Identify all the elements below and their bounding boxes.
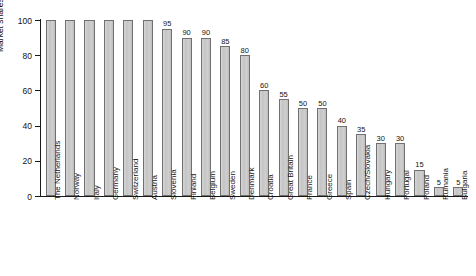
x-axis-category-label: France [306,175,314,200]
x-axis-category-label: Finland [190,174,198,200]
bar-group[interactable]: 50 [317,20,327,196]
bar-group[interactable]: 50 [298,20,308,196]
y-axis-tick-label: 80 [23,51,32,60]
x-axis-category-label: Norway [73,173,81,200]
bar-value-label: 90 [182,29,190,37]
x-axis-category-label: Hungary [384,170,392,200]
y-axis-tick-label: 0 [27,192,32,201]
x-axis-category-label: Bulgaria [461,171,469,200]
y-axis-tick-label: 60 [23,87,32,96]
bar-group[interactable]: 90 [182,20,192,196]
x-axis-category-label: Portugal [403,170,411,200]
bar-group[interactable]: 5 [453,20,463,196]
bar-group[interactable]: 90 [201,20,211,196]
x-axis-category-label: Czech/Slovakia [364,145,372,200]
x-axis-category-label: Rumania [442,168,450,200]
x-axis-category-label: The Netherlands [54,141,62,200]
bar[interactable] [65,20,75,196]
bar-group[interactable]: 85 [220,20,230,196]
x-axis-category-label: Italy [93,185,101,200]
x-axis-category-label: Poland [423,175,431,200]
bar-value-label: 85 [221,38,229,46]
bar[interactable] [84,20,94,196]
y-axis-tick: 0 [35,196,40,197]
bar-group[interactable]: 15 [414,20,424,196]
bar-value-label: 60 [260,82,268,90]
x-axis-category-label: Austria [151,175,159,200]
y-axis-tick-label: 20 [23,157,32,166]
y-axis-tick: 40 [35,126,40,127]
bar-value-label: 80 [241,47,249,55]
y-axis-tick: 100 [35,20,40,21]
bar-group[interactable] [65,20,75,196]
bar[interactable] [143,20,153,196]
bar-value-label: 50 [318,100,326,108]
x-axis-category-label: Greece [326,174,334,200]
bar-value-label: 15 [415,161,423,169]
bar-group[interactable]: 60 [259,20,269,196]
bar-group[interactable] [84,20,94,196]
bar-value-label: 55 [279,91,287,99]
bar-value-label: 40 [338,117,346,125]
y-axis-title-label: Market shares, % [0,0,5,52]
x-axis-category-label: Great Britain [287,155,295,200]
x-axis-category-label: Spain [345,180,353,200]
y-axis-tick: 80 [35,55,40,56]
bar-chart: Market shares, % 020406080100 9590908580… [0,0,476,276]
x-axis-category-label: Denmark [248,168,256,200]
x-axis-category-label: Belgium [209,171,217,200]
bar-value-label: 95 [163,20,171,28]
y-axis-title: Market shares, % [0,0,5,52]
bar[interactable] [182,38,192,196]
bar-group[interactable]: 40 [337,20,347,196]
y-axis-tick: 20 [35,161,40,162]
y-axis-tick: 60 [35,90,40,91]
x-axis-category-label: Switzerland [132,159,140,200]
x-axis-category-label: Sweden [229,171,237,200]
bar-group[interactable] [143,20,153,196]
bar-value-label: 35 [357,126,365,134]
bar-value-label: 30 [376,135,384,143]
x-axis-category-label: Slovenia [170,169,178,200]
y-axis-tick-label: 100 [18,16,32,25]
bar-value-label: 30 [396,135,404,143]
bar-value-label: 50 [299,100,307,108]
y-axis-tick-label: 40 [23,122,32,131]
x-axis-category-label: Croatia [267,174,275,200]
bar-value-label: 90 [202,29,210,37]
x-axis-category-label: Germany [112,167,120,200]
